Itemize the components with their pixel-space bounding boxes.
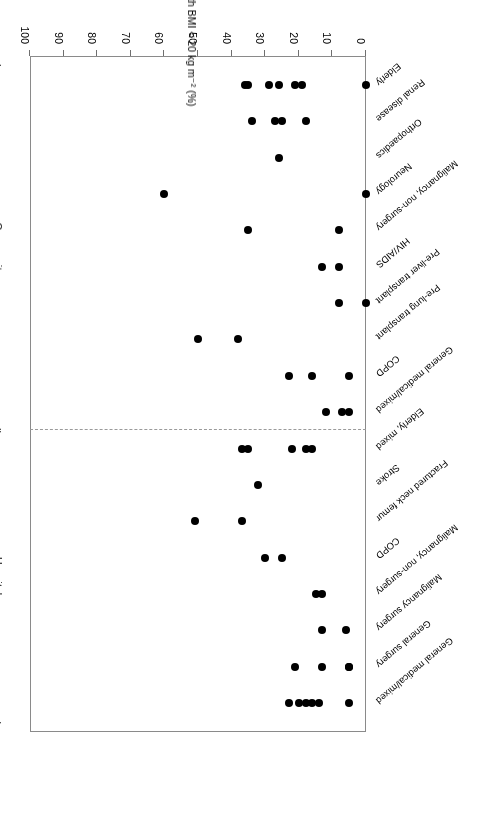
data-point [362,299,370,307]
data-point [285,372,293,380]
axis-tick [130,50,131,56]
bracket-arrow-up [0,431,1,439]
group-label: Community [0,222,6,275]
axis-tick-label: 20 [288,32,299,44]
bracket-arrow-down [0,422,1,430]
category-label: Malignancy, non-surgery [374,522,460,596]
data-point [191,517,199,525]
bracket-arrow-up [0,722,1,730]
axis-tick [63,50,64,56]
category-label: COPD [374,535,401,560]
data-point [285,699,293,707]
axis-tick [163,50,164,56]
data-point [345,663,353,671]
axis-tick-label: 30 [255,32,266,44]
group-label: Hospital [0,557,6,595]
axis-tick [231,50,232,56]
axis-tick-label: 40 [221,32,232,44]
category-label: General medical/mixed [374,635,455,705]
category-label: Stroke [374,462,401,487]
axis-tick-label: 80 [87,32,98,44]
category-label: Elderly [374,61,403,87]
axis-tick [96,50,97,56]
axis-tick [264,50,265,56]
axis-tick [365,50,366,56]
data-point [322,408,330,416]
bracket-arrow-down [0,58,1,66]
category-label: Malignancy, non-surgery [374,159,460,233]
axis-tick [331,50,332,56]
chart-figure: 0102030405060708090100 General medical/m… [0,0,482,820]
data-point [238,517,246,525]
data-point [275,154,283,162]
axis-tick-label: 100 [20,26,31,44]
data-point [275,81,283,89]
axis-tick-label: 90 [53,32,64,44]
data-point [238,445,246,453]
category-label: General medical/mixed [374,345,455,415]
data-point [288,445,296,453]
axis-tick-label: 10 [322,32,333,44]
data-point [295,699,303,707]
data-point [335,263,343,271]
axis-tick-label: 60 [154,32,165,44]
data-point [345,372,353,380]
data-point [315,699,323,707]
axis-tick [29,50,30,56]
category-label: COPD [374,353,401,378]
data-point [302,445,310,453]
group-divider [30,429,366,430]
data-point [312,590,320,598]
data-point [318,663,326,671]
data-point [265,81,273,89]
data-point [261,554,269,562]
data-point [278,554,286,562]
axis-tick-label: 70 [120,32,131,44]
plot-frame [30,56,366,732]
data-point [362,81,370,89]
axis-tick-label: 0 [356,38,367,44]
axis-tick [298,50,299,56]
category-label: Neurology [374,161,414,197]
axis-title: Proportion of patients with BMI < 20 kg … [186,0,198,107]
category-label: HIV/AIDS [374,236,412,270]
data-point [362,190,370,198]
data-point [302,117,310,125]
category-label: Fractured neck femur [374,458,450,524]
